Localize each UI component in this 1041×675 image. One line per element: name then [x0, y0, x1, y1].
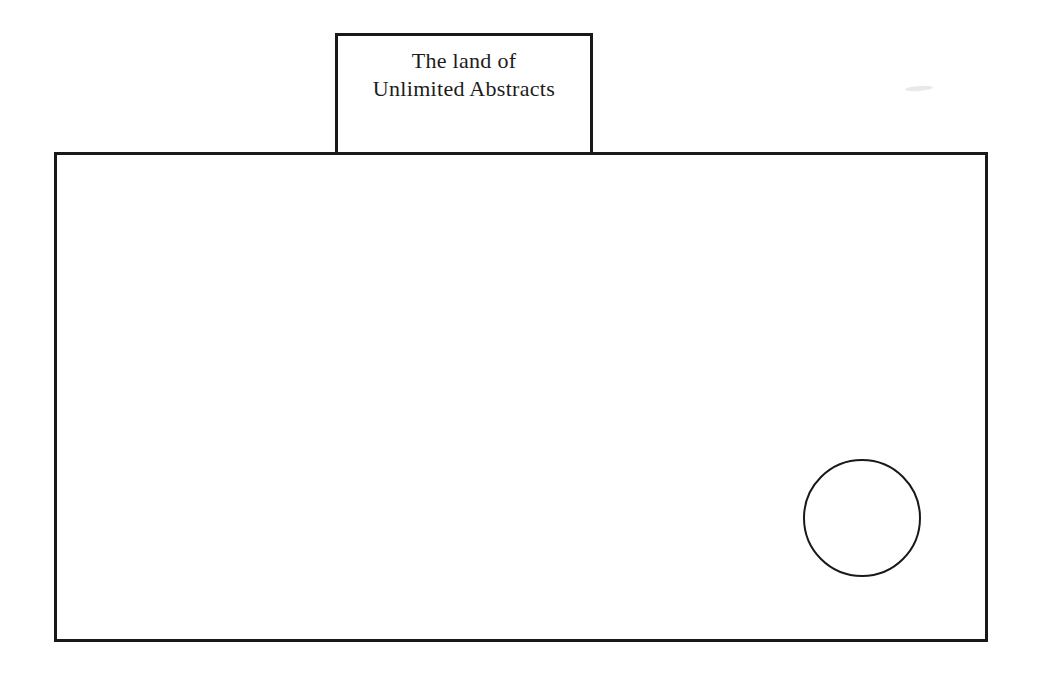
- scan-smudge-artifact: [905, 85, 933, 92]
- title-box: The land of Unlimited Abstracts: [335, 33, 593, 155]
- diagram-canvas: The land of Unlimited Abstracts: [0, 0, 1041, 675]
- circle-shape: [803, 459, 921, 577]
- title-line-1: The land of: [338, 47, 590, 75]
- title-line-2: Unlimited Abstracts: [338, 75, 590, 103]
